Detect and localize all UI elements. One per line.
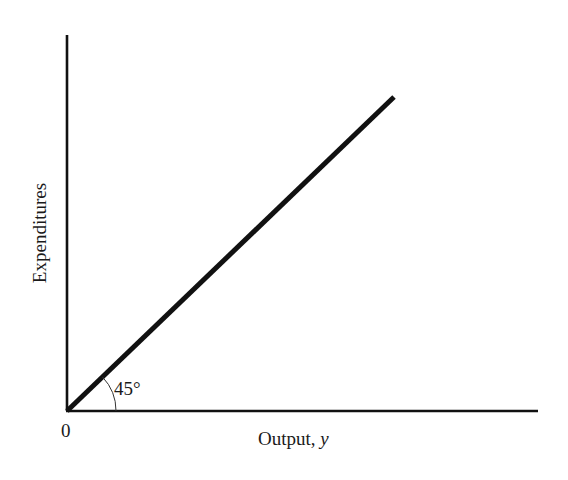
x-axis-label: Output, y bbox=[258, 428, 329, 449]
angle-label: 45° bbox=[114, 378, 141, 399]
forty-five-degree-line bbox=[67, 97, 394, 411]
chart: 45° 0 Output, y Expenditures bbox=[0, 0, 568, 480]
x-axis-label-main: Output, bbox=[258, 428, 320, 449]
y-axis-label: Expenditures bbox=[29, 183, 50, 283]
x-axis-label-var: y bbox=[318, 428, 329, 449]
origin-label: 0 bbox=[61, 420, 71, 441]
